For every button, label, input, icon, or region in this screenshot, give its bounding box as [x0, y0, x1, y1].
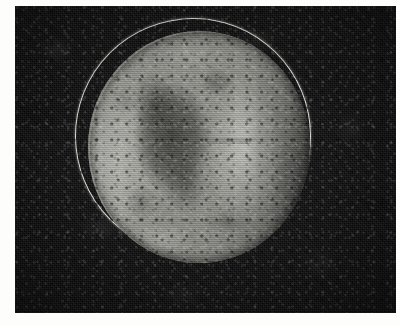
planetary-disk: [88, 31, 310, 263]
figure-root: [0, 0, 400, 325]
dark-albedo-patch-icon: [88, 31, 310, 263]
secondary-albedo-mottling: [88, 31, 310, 263]
bright-albedo-band: [88, 31, 310, 263]
equatorial-streak: [88, 138, 310, 144]
photographic-plate: [15, 6, 396, 313]
disk-edge-shading: [88, 31, 310, 263]
disk-rim-highlight: [88, 31, 310, 263]
disk-grain-texture: [88, 31, 310, 263]
